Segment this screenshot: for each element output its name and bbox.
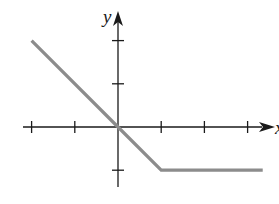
x-axis-label: x	[275, 118, 279, 137]
data-series	[32, 41, 263, 171]
series-line	[32, 41, 263, 171]
axes	[23, 11, 275, 187]
plot-area	[0, 0, 279, 204]
y-axis-label: y	[103, 7, 111, 26]
